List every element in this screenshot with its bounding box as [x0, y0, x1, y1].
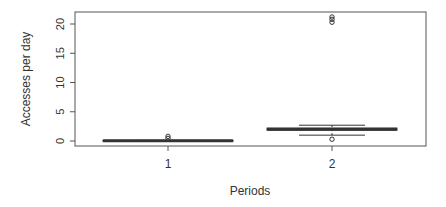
y-axis: 05101520	[54, 18, 75, 144]
y-tick-label: 0	[54, 138, 66, 144]
x-tick-label: 2	[329, 157, 336, 171]
x-tick-label: 1	[165, 157, 172, 171]
y-axis-label: Accesses per day	[19, 32, 33, 127]
y-tick-label: 15	[54, 47, 66, 59]
x-axis-label: Periods	[230, 184, 271, 198]
y-tick-label: 5	[54, 109, 66, 115]
boxes	[103, 15, 397, 142]
y-tick-label: 10	[54, 76, 66, 88]
x-axis: 12	[165, 146, 336, 171]
y-tick-label: 20	[54, 18, 66, 30]
plot-frame	[75, 12, 426, 146]
box-2	[267, 15, 397, 142]
plot-border	[75, 12, 426, 146]
outlier-point	[330, 137, 334, 141]
box-1	[103, 134, 233, 141]
box-plot: 05101520 12 Accesses per day Periods	[0, 0, 446, 207]
